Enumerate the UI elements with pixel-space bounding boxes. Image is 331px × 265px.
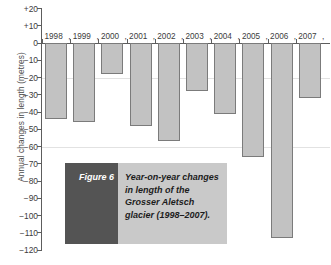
x-tick-mark (98, 39, 99, 44)
bar (130, 43, 152, 126)
y-tick-label: −30 (8, 90, 38, 100)
y-tick-mark (37, 25, 42, 26)
bar (158, 43, 180, 141)
x-axis-year-label: 2006 (270, 32, 288, 41)
figure-caption-label-cell: Figure 6 (65, 163, 118, 244)
bar (271, 43, 293, 238)
x-axis-year-label: 1998 (45, 32, 63, 41)
glacier-length-change-bar-chart: Annual changes in length (metres) +20+10… (0, 0, 331, 265)
y-tick-mark (37, 198, 42, 199)
y-tick-mark (37, 129, 42, 130)
y-tick-mark (37, 163, 42, 164)
x-tick-mark (70, 39, 71, 44)
figure-caption-text-cell: Year-on-year changes in length of the Gr… (118, 163, 227, 244)
y-tick-label: −50 (8, 124, 38, 134)
x-tick-mark (155, 39, 156, 44)
y-tick-label: −110 (8, 228, 38, 238)
y-tick-label: −60 (8, 142, 38, 152)
y-tick-mark (37, 43, 42, 44)
y-tick-mark (37, 112, 42, 113)
bar (186, 43, 208, 91)
x-axis-label-separator: , (322, 32, 324, 41)
y-tick-mark (37, 94, 42, 95)
x-axis-year-label: 2004 (214, 32, 232, 41)
x-axis-year-label: 2003 (186, 32, 204, 41)
x-axis-year-label: 2007 (298, 32, 316, 41)
x-axis-year-label: 2001 (129, 32, 147, 41)
y-tick-mark (37, 215, 42, 216)
figure-caption-text: Year-on-year changes in length of the Gr… (125, 171, 221, 221)
x-tick-mark (183, 39, 184, 44)
y-tick-mark (37, 250, 42, 251)
y-axis-tick-labels: +20+100−10−20−30−40−50−60−70−80−90−100−1… (5, 0, 38, 265)
bar (299, 43, 321, 98)
bar (214, 43, 236, 114)
y-tick-label: +20 (8, 4, 38, 14)
y-tick-label: −40 (8, 107, 38, 117)
y-tick-label: −90 (8, 193, 38, 203)
y-tick-mark (37, 60, 42, 61)
y-tick-mark (37, 232, 42, 233)
y-tick-label: −80 (8, 176, 38, 186)
x-axis-year-label: 2000 (101, 32, 119, 41)
bar (45, 43, 67, 119)
bar (73, 43, 95, 122)
x-tick-mark (211, 39, 212, 44)
x-axis-year-label: 2005 (242, 32, 260, 41)
x-axis-year-label: 2002 (157, 32, 175, 41)
y-tick-label: +10 (8, 21, 38, 31)
bar (101, 43, 123, 74)
figure-caption-label: Figure 6 (65, 172, 114, 182)
figure-caption: Figure 6 Year-on-year changes in length … (65, 163, 227, 244)
y-tick-mark (37, 77, 42, 78)
bar (242, 43, 264, 157)
y-tick-label: −120 (8, 245, 38, 255)
x-tick-mark (296, 39, 297, 44)
y-tick-label: −70 (8, 159, 38, 169)
x-axis-year-label: 1999 (73, 32, 91, 41)
x-tick-mark (127, 39, 128, 44)
y-tick-mark (37, 8, 42, 9)
x-tick-mark (42, 39, 43, 44)
y-tick-label: −20 (8, 73, 38, 83)
y-tick-label: 0 (8, 38, 38, 48)
x-tick-mark (239, 39, 240, 44)
y-tick-mark (37, 181, 42, 182)
x-tick-mark (268, 39, 269, 44)
y-tick-mark (37, 146, 42, 147)
y-tick-label: −100 (8, 211, 38, 221)
y-tick-label: −10 (8, 55, 38, 65)
